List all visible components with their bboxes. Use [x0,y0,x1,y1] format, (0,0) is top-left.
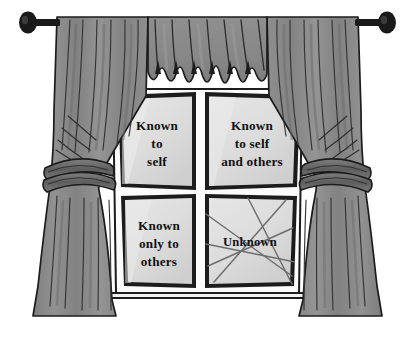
pane-top-left-line-1: Known [136,118,179,133]
pane-bottom-left-line-3: others [141,254,177,269]
pane-top-left-line-2: to [151,136,163,151]
finial-knob-left [19,12,37,34]
johari-window-illustration: Known to self Known to self and others [0,0,415,338]
pane-top-right-line-2: to self [235,136,270,151]
window-frame: Known to self Known to self and others [108,88,307,299]
illustration-canvas: Known to self Known to self and others [0,0,415,338]
finial-knob-right [378,12,396,34]
window-sill [108,292,307,299]
pane-top-left-line-3: self [147,154,167,169]
pane-top-right-line-3: and others [221,154,283,169]
pane-top-right-line-1: Known [231,118,274,133]
valance-swag [148,17,267,83]
pane-bottom-left-line-2: only to [139,236,179,251]
pane-bottom-right-line-1: Unknown [223,235,277,249]
pane-bottom-left-line-1: Known [138,218,181,233]
pane-bottom-right: Unknown [205,194,297,288]
pane-bottom-left: Known only to others [121,194,196,288]
